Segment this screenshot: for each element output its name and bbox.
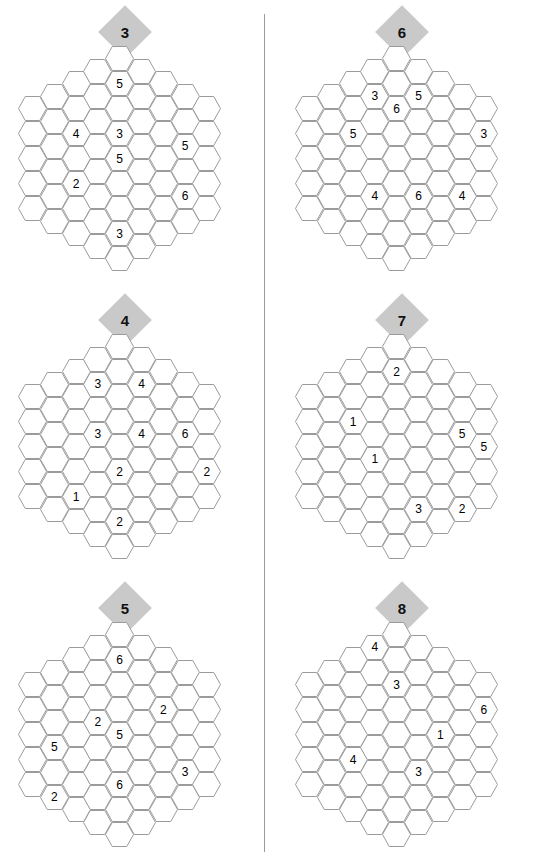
hex-cell-value: 2 <box>192 459 221 484</box>
puzzle-number-label: 8 <box>383 589 421 627</box>
puzzle-3: 342535356 <box>0 0 250 288</box>
puzzle-8: 8443316 <box>277 576 527 864</box>
hex-cell[interactable] <box>469 672 498 697</box>
hex-grid: 1123525 <box>277 334 527 574</box>
hex-cell[interactable] <box>192 146 221 171</box>
hex-grid: 443316 <box>277 622 527 862</box>
puzzle-6: 653465643 <box>277 0 527 288</box>
hex-cell[interactable] <box>469 747 498 772</box>
puzzle-number-label: 7 <box>383 301 421 339</box>
hex-cell-value: 3 <box>469 121 498 146</box>
hex-cell[interactable] <box>469 722 498 747</box>
hex-cell-value: 5 <box>469 434 498 459</box>
hex-cell[interactable]: 3 <box>469 121 498 146</box>
hex-cell[interactable] <box>469 772 498 797</box>
hex-cell[interactable] <box>469 484 498 509</box>
hex-grid: 133224462 <box>0 334 250 574</box>
hex-cell[interactable] <box>469 409 498 434</box>
puzzle-5: 552265623 <box>0 576 250 864</box>
hex-cell[interactable] <box>469 384 498 409</box>
hex-cell[interactable] <box>192 722 221 747</box>
hex-grid: 52265623 <box>0 622 250 862</box>
puzzle-number-label: 5 <box>106 589 144 627</box>
puzzle-4: 4133224462 <box>0 288 250 576</box>
hex-cell[interactable] <box>192 384 221 409</box>
hex-cell[interactable] <box>469 459 498 484</box>
hex-cell[interactable] <box>469 171 498 196</box>
puzzle-7: 71123525 <box>277 288 527 576</box>
hex-cell[interactable] <box>192 96 221 121</box>
hex-cell[interactable] <box>192 171 221 196</box>
puzzle-number-label: 3 <box>106 13 144 51</box>
hex-cell[interactable] <box>192 434 221 459</box>
hex-cell[interactable] <box>192 484 221 509</box>
hex-cell[interactable] <box>192 697 221 722</box>
hex-cell[interactable] <box>469 96 498 121</box>
column-divider <box>264 14 265 852</box>
hex-grid: 42535356 <box>0 46 250 286</box>
puzzle-number-label: 6 <box>383 13 421 51</box>
hex-grid: 53465643 <box>277 46 527 286</box>
hex-cell[interactable]: 5 <box>469 434 498 459</box>
puzzle-sheet: 3425353566534656434133224462711235255522… <box>0 0 539 866</box>
hex-cell[interactable] <box>192 196 221 221</box>
hex-cell[interactable] <box>469 196 498 221</box>
hex-cell[interactable] <box>192 772 221 797</box>
hex-cell[interactable]: 6 <box>469 697 498 722</box>
hex-cell[interactable] <box>192 747 221 772</box>
hex-cell[interactable] <box>192 672 221 697</box>
hex-cell[interactable] <box>469 146 498 171</box>
hex-cell-value: 6 <box>469 697 498 722</box>
puzzle-number-label: 4 <box>106 301 144 339</box>
hex-cell[interactable] <box>192 121 221 146</box>
hex-cell[interactable]: 2 <box>192 459 221 484</box>
hex-cell[interactable] <box>192 409 221 434</box>
